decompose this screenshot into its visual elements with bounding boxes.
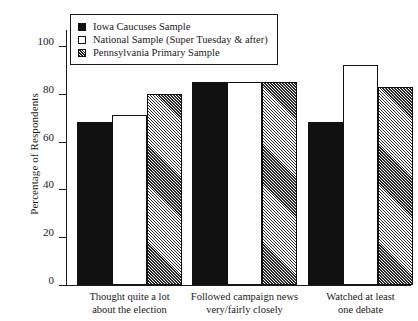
open-square-icon — [78, 36, 86, 44]
y-axis-tick-label: 0 — [14, 280, 54, 281]
solid-square-icon — [78, 23, 86, 31]
legend-item: Pennsylvania Primary Sample — [78, 46, 268, 59]
bar — [147, 94, 182, 285]
legend-item-label: Iowa Caucuses Sample — [93, 21, 190, 32]
bar — [378, 87, 413, 285]
y-axis-tick — [59, 94, 66, 95]
y-axis-tick — [59, 237, 66, 238]
legend-item-label: Pennsylvania Primary Sample — [93, 47, 220, 58]
y-axis-tick — [59, 285, 66, 286]
y-axis-tick-label: 20 — [14, 232, 54, 233]
y-axis-tick-label: 80 — [14, 89, 54, 90]
bar — [308, 122, 343, 285]
y-axis-line — [66, 30, 67, 286]
y-axis-tick — [59, 142, 66, 143]
bar — [227, 82, 262, 285]
legend-item-label: National Sample (Super Tuesday & after) — [93, 34, 268, 45]
bar — [343, 65, 378, 285]
bar — [262, 82, 297, 285]
y-axis-tick — [59, 46, 66, 47]
y-axis-tick — [59, 189, 66, 190]
legend-item: National Sample (Super Tuesday & after) — [78, 33, 268, 46]
y-axis-tick-label: 100 — [14, 41, 54, 42]
bar — [77, 122, 112, 285]
x-axis-category-label: Watched at least one debate — [276, 291, 418, 316]
hatched-square-icon — [78, 49, 86, 57]
bar-chart: Percentage of Respondents 020406080100 T… — [0, 0, 418, 321]
x-axis-line — [66, 285, 411, 286]
y-axis-tick-label: 40 — [14, 184, 54, 185]
y-axis-tick-label: 60 — [14, 137, 54, 138]
bar — [112, 115, 147, 285]
y-axis-title: Percentage of Respondents — [28, 34, 40, 274]
bar — [192, 82, 227, 285]
legend: Iowa Caucuses Sample National Sample (Su… — [70, 14, 278, 65]
legend-item: Iowa Caucuses Sample — [78, 20, 268, 33]
